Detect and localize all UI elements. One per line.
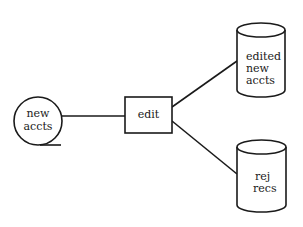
- cylinder-top: [237, 140, 286, 154]
- node-label-line: accts: [24, 120, 53, 133]
- node-rej-recs: rej recs: [237, 140, 286, 212]
- edge-edit-to-edited-new-accts: [172, 61, 237, 107]
- node-new-accts: new accts: [14, 97, 62, 145]
- cylinder-top: [237, 23, 285, 37]
- node-edit: edit: [125, 97, 172, 133]
- node-label-line: recs: [253, 182, 277, 195]
- node-label-line: accts: [246, 74, 275, 87]
- node-label-line: edit: [138, 108, 160, 121]
- edge-edit-to-rej-recs: [172, 121, 237, 174]
- node-edited-new-accts: edited new accts: [237, 23, 285, 97]
- node-label-line: new: [26, 107, 50, 120]
- flow-diagram: new accts edit edited new accts rej recs: [0, 0, 303, 227]
